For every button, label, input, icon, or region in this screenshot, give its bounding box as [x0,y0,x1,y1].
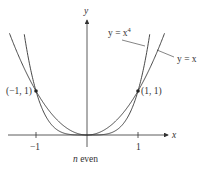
x-tick-label-neg1: −1 [30,142,40,152]
chart: y x −1 1 (−1, 1) (1, 1) y = x4 y = x n e… [0,0,200,173]
curve-label-x2: y = x [177,54,197,64]
caption: n even [73,154,98,164]
curve-label-x2-leader [157,50,174,57]
y-axis-label: y [83,6,89,16]
point-label-left: (−1, 1) [6,86,32,97]
point-neg1-1 [34,89,38,93]
point-1-1 [136,89,140,93]
x-tick-label-pos1: 1 [136,142,141,152]
curve-label-x4: y = x4 [108,26,132,38]
x-axis-label: x [171,130,177,140]
point-label-right: (1, 1) [141,86,162,97]
curve-label-x4-leader [122,40,145,46]
